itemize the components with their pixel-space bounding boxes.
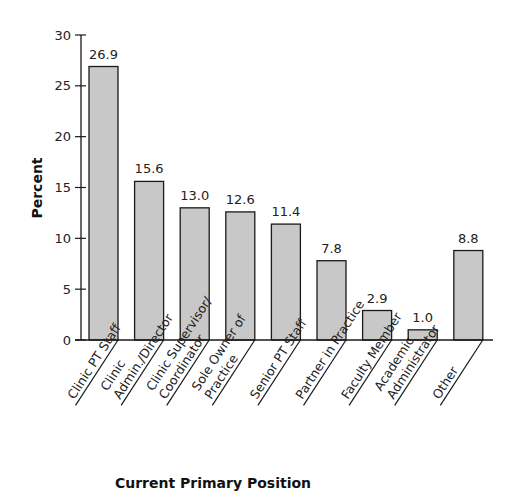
- y-tick-label: 0: [63, 333, 71, 348]
- value-label: 8.8: [458, 231, 479, 246]
- value-label: 13.0: [180, 188, 209, 203]
- y-tick-label: 15: [54, 180, 71, 195]
- bar-9: [454, 251, 483, 340]
- value-label: 26.9: [89, 47, 118, 62]
- y-tick-label: 30: [54, 28, 71, 43]
- y-axis: 051015202530: [54, 28, 86, 348]
- bar-1: [89, 67, 118, 340]
- y-tick-label: 5: [63, 282, 71, 297]
- category-label: Other: [429, 363, 461, 402]
- bar-chart: 051015202530 26.915.613.012.611.47.82.91…: [0, 0, 518, 504]
- y-tick-label: 10: [54, 231, 71, 246]
- value-label: 11.4: [271, 204, 300, 219]
- value-label: 7.8: [321, 241, 342, 256]
- value-label: 15.6: [135, 161, 164, 176]
- y-tick-label: 20: [54, 129, 71, 144]
- value-label: 12.6: [226, 192, 255, 207]
- bars: 26.915.613.012.611.47.82.91.08.8: [89, 47, 483, 340]
- category-label-line: Other: [429, 363, 461, 402]
- x-axis-title: Current Primary Position: [115, 475, 311, 491]
- value-label: 2.9: [367, 291, 388, 306]
- y-tick-label: 25: [54, 78, 71, 93]
- y-axis-title: Percent: [29, 157, 45, 218]
